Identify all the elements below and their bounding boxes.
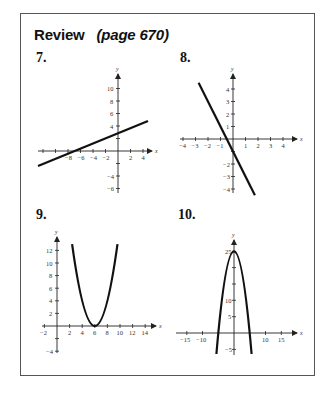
graphs-canvas: −8 −6 −4 −2 2 4 10 8 6 4 −4 −6 x y bbox=[0, 0, 329, 396]
x-tick-label: 2 bbox=[257, 142, 260, 149]
graph-10: −15 −10 10 15 25 10 5 −5 x y bbox=[176, 232, 303, 355]
x-tick-label: −2 bbox=[204, 142, 211, 149]
x-tick-label: −4 bbox=[90, 154, 98, 161]
x-tick-label: −4 bbox=[179, 142, 187, 149]
y-tick-label: −5 bbox=[225, 346, 232, 353]
y-tick-label: 25 bbox=[225, 248, 232, 255]
x-axis-label: x bbox=[299, 136, 303, 142]
x-tick-label: −10 bbox=[196, 336, 206, 343]
x-tick-label: 2 bbox=[68, 329, 71, 336]
x-tick-label: −2 bbox=[103, 154, 110, 161]
x-tick-label: 4 bbox=[282, 142, 286, 149]
y-tick-label: 2 bbox=[226, 111, 229, 118]
x-tick-label: −1 bbox=[217, 142, 224, 149]
y-tick-label: 4 bbox=[49, 297, 53, 304]
x-tick-label: 12 bbox=[129, 329, 136, 336]
graph-9: −2 2 4 6 8 10 12 14 12 10 8 6 4 2 −4 x y bbox=[40, 229, 162, 355]
x-tick-label: 6 bbox=[93, 329, 97, 336]
graph-7: −8 −6 −4 −2 2 4 10 8 6 4 −4 −6 x y bbox=[38, 66, 158, 193]
y-tick-label: 6 bbox=[110, 110, 114, 117]
y-tick-label: 6 bbox=[49, 285, 53, 292]
y-tick-label: 10 bbox=[107, 85, 114, 92]
x-tick-label: 14 bbox=[142, 329, 149, 336]
x-tick-label: 15 bbox=[278, 336, 285, 343]
x-tick-label: 8 bbox=[106, 329, 109, 336]
y-tick-label: 8 bbox=[110, 98, 113, 105]
x-tick-label: 1 bbox=[244, 142, 247, 149]
y-axis-label: y bbox=[54, 229, 58, 235]
y-tick-label: 1 bbox=[226, 123, 229, 130]
y-tick-label: 2 bbox=[49, 310, 52, 317]
graph-8: −4 −3 −2 −1 1 2 3 4 4 3 2 1 −2 −3 −4 x y bbox=[179, 66, 303, 195]
x-axis-label: x bbox=[158, 323, 162, 329]
y-tick-label: 10 bbox=[46, 260, 53, 267]
y-tick-label: 12 bbox=[46, 247, 53, 254]
y-tick-label: 3 bbox=[226, 98, 229, 105]
x-tick-label: 4 bbox=[142, 154, 146, 161]
y-tick-label: −3 bbox=[223, 173, 230, 180]
x-tick-label: 2 bbox=[129, 154, 132, 161]
x-tick-label: 10 bbox=[262, 336, 269, 343]
x-tick-label: −2 bbox=[40, 329, 47, 336]
y-tick-label: 10 bbox=[225, 297, 232, 304]
y-axis-label: y bbox=[230, 66, 234, 72]
y-tick-label: −6 bbox=[107, 185, 115, 192]
x-axis-label: x bbox=[299, 330, 303, 336]
y-tick-label: 8 bbox=[49, 272, 52, 279]
y-tick-label: −2 bbox=[223, 161, 230, 168]
x-tick-label: 4 bbox=[81, 329, 85, 336]
y-tick-label: −4 bbox=[46, 348, 54, 355]
y-tick-label: −4 bbox=[223, 186, 231, 193]
y-axis-label: y bbox=[231, 232, 235, 238]
y-tick-label: −4 bbox=[107, 173, 115, 180]
parabola-plot bbox=[72, 244, 117, 326]
y-tick-label: 4 bbox=[226, 86, 230, 93]
y-tick-label: 5 bbox=[228, 313, 231, 320]
x-tick-label: 10 bbox=[117, 329, 124, 336]
y-tick-label: 4 bbox=[110, 123, 114, 130]
y-axis-label: y bbox=[115, 66, 119, 72]
x-axis-label: x bbox=[154, 148, 158, 154]
x-tick-label: −6 bbox=[78, 154, 86, 161]
x-tick-label: 3 bbox=[269, 142, 272, 149]
x-tick-label: −15 bbox=[180, 336, 190, 343]
x-tick-label: −3 bbox=[192, 142, 199, 149]
